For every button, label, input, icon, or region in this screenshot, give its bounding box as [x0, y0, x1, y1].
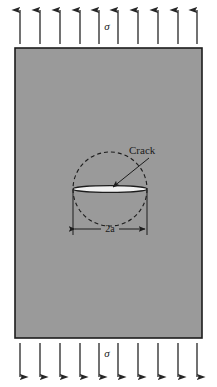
crack-ellipse	[73, 186, 147, 193]
dimension-label: 2a	[105, 223, 115, 234]
diagram-canvas: σ Crack 2a σ	[0, 0, 217, 387]
plate-body	[15, 48, 202, 338]
crack-label: Crack	[129, 144, 156, 156]
bottom-stress-label: σ	[104, 347, 110, 359]
top-stress-label: σ	[104, 20, 110, 32]
crack-diagram-figure: σ Crack 2a σ	[0, 0, 217, 387]
